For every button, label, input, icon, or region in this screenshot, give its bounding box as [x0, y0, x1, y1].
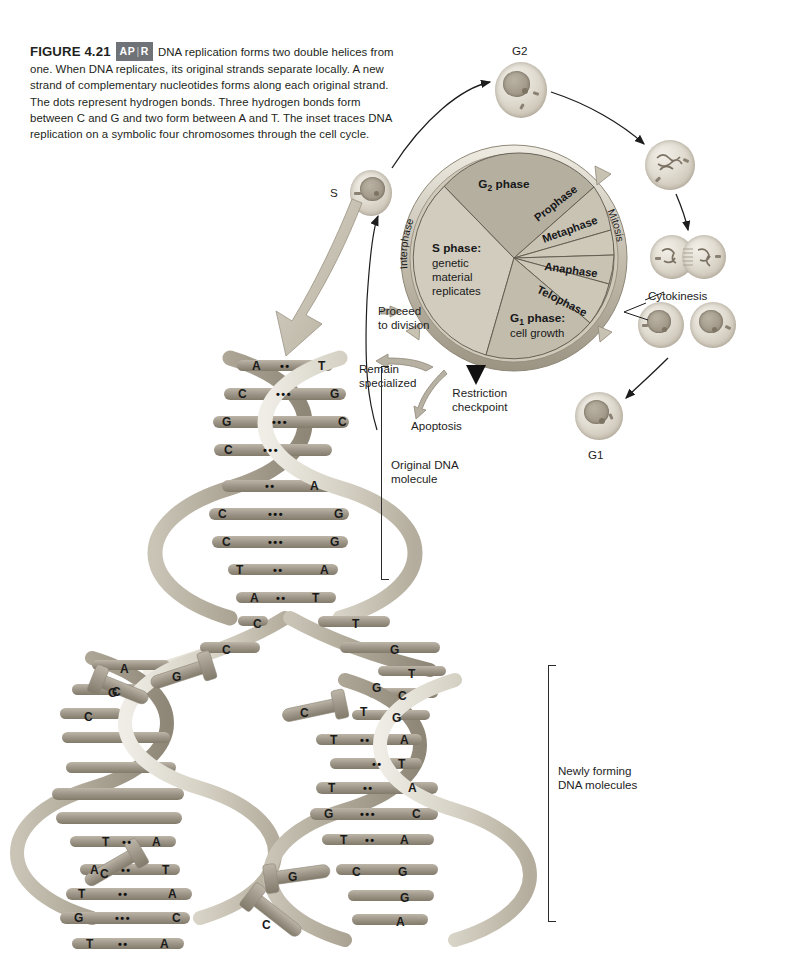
cell-cytokinesis [650, 233, 726, 281]
bracket-newly-forming-dna [548, 665, 556, 922]
centriole [519, 103, 525, 110]
label-g1-phase: G1 phase: [510, 311, 565, 327]
right-daughter-base-right: C [412, 807, 421, 821]
cell-label-g2: G2 [512, 44, 527, 58]
right-daughter-base-right: T [398, 757, 405, 771]
unpaired-base: A [396, 915, 405, 929]
label-g1-phase-sub: cell growth [510, 327, 564, 339]
right-daughter-hydrogen-bonds: •• [365, 834, 376, 846]
centriole [354, 192, 361, 195]
left-daughter-hydrogen-bonds: •• [118, 888, 129, 900]
label-s-phase-line3: replicates [432, 285, 481, 297]
original-base-right: A [320, 563, 329, 577]
right-daughter-base-left: T [340, 833, 347, 847]
chromosome-cluster [645, 140, 695, 190]
left-daughter-base-right: A [152, 835, 161, 849]
arrow-mitosis-to-cytokinesis [676, 194, 688, 230]
caption-text: DNA replication forms two double helices… [30, 46, 394, 140]
unpaired-base: A [120, 662, 129, 676]
nucleolus [712, 327, 717, 332]
free-nucleotide-base-0: G [172, 670, 181, 684]
unpaired-base: G [372, 681, 381, 695]
original-base-left: C [222, 535, 231, 549]
original-hydrogen-bonds: ••• [263, 444, 279, 456]
ring-arrowhead-top [595, 166, 611, 185]
original-base-left: A [252, 359, 261, 373]
original-base-right: C [338, 415, 347, 429]
ap-badge-right: R [141, 45, 149, 57]
label-cytokinesis: Cytokinesis [648, 289, 707, 303]
centriole [533, 91, 540, 96]
unpaired-base: T [360, 705, 367, 719]
unpaired-base: C [352, 865, 361, 879]
right-daughter-hydrogen-bonds: •• [360, 734, 371, 746]
arrow-g2-to-mitosis [551, 92, 644, 144]
label-s-phase-line1: genetic [432, 257, 469, 269]
right-daughter-hydrogen-bonds: •• [363, 782, 374, 794]
right-daughter-hydrogen-bonds: •• [372, 758, 383, 770]
left-daughter-base-left: T [86, 937, 93, 951]
left-daughter-hydrogen-bonds: •• [121, 864, 132, 876]
nucleus [647, 310, 671, 333]
cell-g2 [495, 62, 547, 118]
big-gray-arrow-body [276, 199, 362, 356]
left-daughter-base-left: T [78, 887, 85, 901]
original-base-right: T [318, 359, 325, 373]
label-s-phase: S phase: [432, 241, 481, 255]
original-hydrogen-bonds: ••• [272, 416, 288, 428]
nucleus [360, 177, 385, 201]
cleavage-furrow-fibers [650, 233, 726, 281]
dna-base-letters: AT••CG•••GC•••C•••A••CG•••CG•••TA••AT••T… [0, 340, 786, 980]
left-daughter-base-left: G [74, 911, 83, 925]
unpaired-base: G [400, 891, 409, 905]
centriole [725, 325, 732, 330]
figure-number: FIGURE 4.21 [30, 44, 111, 59]
unpaired-base: T [408, 667, 415, 681]
left-daughter-base-left: A [90, 863, 99, 877]
left-daughter-hydrogen-bonds: •• [118, 938, 129, 950]
original-hydrogen-bonds: ••• [268, 536, 284, 548]
cell-label-s-phase: S [330, 186, 338, 200]
ap-r-badge: AP|R [116, 42, 153, 61]
left-daughter-base-right: A [168, 887, 177, 901]
figure-root: FIGURE 4.21AP|RDNA replication forms two… [0, 0, 786, 980]
free-nucleotide-base-5: C [262, 918, 271, 932]
cell-s-phase [350, 170, 392, 216]
right-daughter-base-left: T [328, 781, 335, 795]
nucleus [699, 310, 723, 333]
left-daughter-base-right: C [172, 911, 181, 925]
left-daughter-base-left: T [102, 835, 109, 849]
unpaired-base: G [398, 865, 407, 879]
original-base-right: A [310, 479, 319, 493]
right-daughter-hydrogen-bonds: ••• [360, 808, 376, 820]
unpaired-base: C [253, 617, 262, 631]
free-nucleotide-base-1: C [300, 706, 309, 720]
label-proceed-to-division: Proceed to division [378, 304, 430, 332]
original-base-left: C [224, 443, 233, 457]
right-daughter-base-left: T [330, 733, 337, 747]
centriole [642, 324, 648, 327]
right-daughter-base-right: A [400, 833, 409, 847]
unpaired-base: C [84, 710, 93, 724]
ap-badge-left: AP [120, 45, 136, 57]
left-daughter-base-right: A [160, 937, 169, 951]
cell-mitosis [645, 140, 695, 190]
original-base-left: C [218, 507, 227, 521]
original-hydrogen-bonds: •• [273, 564, 284, 576]
original-base-right: G [330, 387, 339, 401]
original-base-left: A [250, 591, 259, 605]
original-hydrogen-bonds: •• [280, 360, 291, 372]
unpaired-base: G [390, 643, 399, 657]
label-s-phase-line2: material [432, 271, 473, 283]
original-hydrogen-bonds: •• [265, 480, 276, 492]
unpaired-base: G [392, 711, 401, 725]
label-g2-phase: G2 phase [478, 177, 530, 193]
left-daughter-hydrogen-bonds: ••• [115, 912, 131, 924]
left-daughter-base-right: T [162, 863, 169, 877]
original-base-right: T [312, 591, 319, 605]
left-daughter-hydrogen-bonds: •• [122, 836, 133, 848]
right-daughter-base-right: A [408, 781, 417, 795]
label-original-dna: Original DNA molecule [391, 458, 459, 486]
original-base-right: G [334, 507, 343, 521]
unpaired-base: C [222, 643, 231, 657]
